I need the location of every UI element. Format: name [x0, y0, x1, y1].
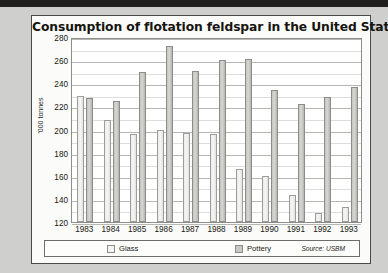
bar-glass	[342, 207, 349, 222]
plot-area	[71, 38, 362, 223]
bar-pottery	[298, 104, 305, 222]
bar-glass	[210, 134, 217, 222]
chart-card: Consumption of flotation feldspar in the…	[31, 15, 371, 264]
y-tick-label: 140	[44, 195, 68, 204]
bar-pottery	[166, 46, 173, 222]
page-background: Consumption of flotation feldspar in the…	[0, 7, 388, 273]
bar-group	[236, 39, 253, 222]
bar-pottery	[139, 72, 146, 222]
bar-group	[210, 39, 227, 222]
bar-glass	[315, 213, 322, 222]
y-tick-label: 200	[44, 126, 68, 135]
legend-item-pottery: Pottery	[235, 244, 271, 253]
bar-group	[315, 39, 332, 222]
bar-pottery	[113, 101, 120, 222]
source-note: Source: USBM	[301, 245, 345, 252]
bar-glass	[262, 176, 269, 222]
bar-group	[104, 39, 121, 222]
y-tick-label: 120	[44, 219, 68, 228]
page-title: Consumption of flotation feldspar in the…	[32, 20, 372, 34]
legend-label-glass: Glass	[119, 244, 138, 253]
bar-group	[183, 39, 200, 222]
bar-glass	[236, 169, 243, 222]
y-tick-label: 260	[44, 57, 68, 66]
y-axis-tick-labels: 120140160180200220240260280	[40, 38, 68, 223]
bar-glass	[104, 120, 111, 222]
bar-group	[289, 39, 306, 222]
y-tick-label: 160	[44, 172, 68, 181]
bar-glass	[289, 195, 296, 222]
bar-group	[262, 39, 279, 222]
bar-pottery	[271, 90, 278, 222]
bar-group	[342, 39, 359, 222]
bar-pottery	[192, 71, 199, 222]
bar-glass	[183, 133, 190, 222]
chart-legend: Glass Pottery Source: USBM	[44, 240, 360, 257]
legend-swatch-pottery-icon	[235, 245, 243, 253]
bar-pottery	[245, 59, 252, 222]
bar-group	[157, 39, 174, 222]
y-tick-label: 280	[44, 34, 68, 43]
y-tick-label: 240	[44, 80, 68, 89]
bar-pottery	[351, 87, 358, 222]
bar-glass	[157, 130, 164, 223]
legend-swatch-glass-icon	[107, 245, 115, 253]
y-tick-label: 220	[44, 103, 68, 112]
bar-glass	[77, 96, 84, 222]
legend-item-glass: Glass	[107, 244, 138, 253]
y-tick-label: 180	[44, 149, 68, 158]
bar-pottery	[324, 97, 331, 222]
bar-glass	[130, 134, 137, 222]
x-tick-label: 1993	[334, 225, 364, 234]
bar-group	[77, 39, 94, 222]
scan-top-strip	[0, 0, 388, 7]
x-axis-tick-labels: 1983198419851986198719881989199019911992…	[71, 225, 362, 239]
bar-pottery	[86, 98, 93, 222]
plot-canvas	[71, 38, 362, 223]
bar-group	[130, 39, 147, 222]
legend-label-pottery: Pottery	[247, 244, 271, 253]
bar-pottery	[219, 60, 226, 222]
